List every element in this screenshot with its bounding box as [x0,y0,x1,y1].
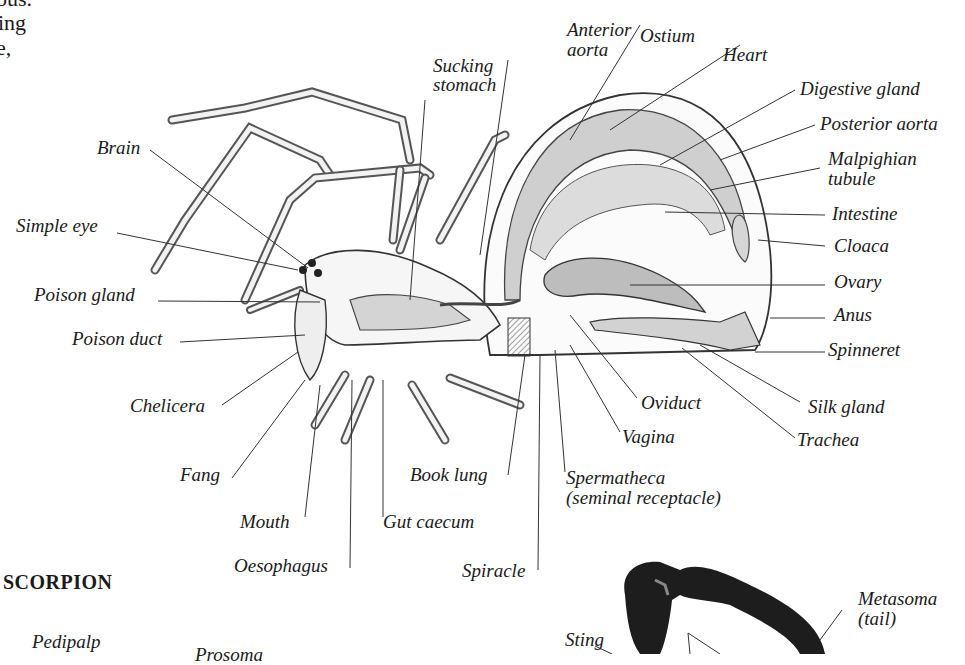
label-sting: Sting [565,630,604,650]
label-anus: Anus [834,305,872,325]
label-spinneret: Spinneret [828,340,900,360]
label-ostium: Ostium [640,26,695,46]
label-poison-duct: Poison duct [72,329,162,349]
label-metasoma-line2: (tail) [858,609,896,629]
label-malpighian-tubule-line1: Malpighian [828,149,917,169]
label-poison-gland: Poison gland [34,285,135,305]
label-silk-gland: Silk gland [808,397,885,417]
label-vagina: Vagina [622,427,675,447]
label-spiracle: Spiracle [462,561,525,581]
label-pedipalp: Pedipalp [32,632,101,652]
label-oviduct: Oviduct [641,393,701,413]
label-digestive-gland: Digestive gland [800,79,920,99]
label-gut-caecum: Gut caecum [383,512,474,532]
label-anterior-aorta-line2: aorta [567,40,608,60]
label-simple-eye: Simple eye [16,216,98,236]
label-brain: Brain [97,138,140,158]
label-heart: Heart [723,45,767,65]
label-trachea: Trachea [797,430,859,450]
label-posterior-aorta: Posterior aorta [820,114,938,134]
label-chelicera: Chelicera [130,396,205,416]
label-fang: Fang [180,465,220,485]
label-sucking-stomach-line1: Sucking [433,56,493,76]
label-spermatheca-line1: Spermatheca [566,468,665,488]
label-malpighian-tubule-line2: tubule [828,169,876,189]
label-mouth: Mouth [240,512,290,532]
spider-abdomen [484,93,771,356]
label-sucking-stomach-line2: stomach [433,75,496,95]
scorpion-photo [624,562,825,654]
label-metasoma-line1: Metasoma [858,589,937,609]
label-ovary: Ovary [834,272,881,292]
label-anterior-aorta-line1: Anterior [567,20,631,40]
label-oesophagus: Oesophagus [234,556,328,576]
label-spermatheca-line2: (seminal receptacle) [566,488,721,508]
label-intestine: Intestine [832,204,897,224]
label-book-lung: Book lung [410,465,488,485]
label-prosoma: Prosoma [195,645,263,665]
section-heading-scorpion: SCORPION [3,571,113,594]
label-cloaca: Cloaca [834,236,889,256]
